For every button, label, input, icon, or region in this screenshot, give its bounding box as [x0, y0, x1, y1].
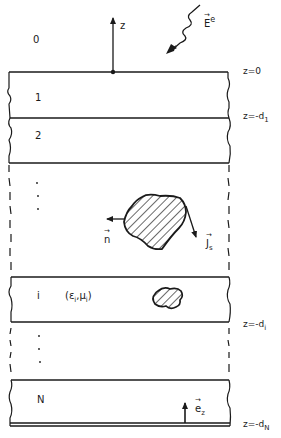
small-scatterer	[153, 288, 182, 308]
eps-symbol: (ε	[65, 290, 74, 301]
interface-di-text: z=-d	[243, 319, 264, 329]
interface-label-d1: z=-d1	[243, 112, 269, 124]
normal-vector-symbol: n	[104, 235, 110, 245]
layer-label-N: N	[37, 395, 44, 405]
interface-dN-text: z=-d	[243, 419, 264, 429]
incident-wave-arrow	[166, 5, 200, 54]
z-axis-arrow	[111, 18, 115, 74]
params-close: )	[88, 290, 92, 301]
normal-vector-label: n	[104, 235, 110, 245]
layered-medium-diagram	[0, 0, 281, 438]
layer-params-i: (εi,μi)	[65, 291, 92, 304]
unit-vector-symbol: e	[195, 404, 201, 414]
continuation-dots	[36, 182, 41, 363]
right-edges	[227, 72, 230, 426]
z-axis-label: z	[120, 21, 125, 31]
interface-label-dN: z=-dN	[243, 420, 269, 432]
left-edges	[8, 72, 12, 426]
large-scatterer	[124, 195, 186, 249]
incident-field-label: Ee	[204, 16, 215, 29]
layer-label-1: 1	[35, 93, 41, 103]
incident-field-symbol: E	[204, 19, 210, 29]
layer-label-2: 2	[35, 131, 41, 141]
interface-label-z0: z=0	[243, 67, 261, 76]
surface-current-symbol: J	[206, 239, 209, 249]
unit-vector-ez-label: ez	[195, 404, 205, 417]
layer-label-i: i	[37, 291, 40, 301]
surface-current-label: Js	[206, 239, 213, 252]
interface-dN-subscript: N	[264, 424, 269, 432]
mu-symbol: ,μ	[76, 290, 86, 301]
surface-current-arrow	[186, 206, 196, 237]
interface-z0-text: z=0	[243, 66, 261, 76]
interface-d1-subscript: 1	[264, 116, 268, 124]
interface-di-subscript: i	[264, 324, 266, 332]
unit-vector-subscript: z	[201, 409, 205, 417]
layer-label-0: 0	[33, 35, 39, 45]
interface-d1-text: z=-d	[243, 111, 264, 121]
incident-field-superscript: e	[210, 15, 215, 24]
interface-label-di: z=-di	[243, 320, 266, 332]
interface-lines	[9, 72, 230, 426]
surface-current-subscript: s	[209, 244, 213, 252]
